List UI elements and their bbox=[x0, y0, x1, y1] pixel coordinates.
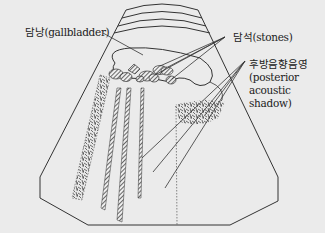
label-shadow-english-3: shadow) bbox=[249, 97, 325, 110]
label-shadow-korean: 후방음향음영 bbox=[249, 58, 325, 71]
label-shadow-english-2: acoustic bbox=[249, 84, 325, 97]
left-speckle-band bbox=[72, 75, 110, 200]
transducer-arcs bbox=[114, 4, 210, 33]
ultrasound-diagram: 담낭(gallbladder) 담석(stones) 후방음향음영 (poste… bbox=[0, 0, 325, 233]
label-gallbladder: 담낭(gallbladder) bbox=[25, 26, 109, 39]
label-shadow-english-1: (posterior bbox=[249, 71, 325, 84]
label-stones: 담석(stones) bbox=[233, 31, 293, 44]
acoustic-shadow-streaks bbox=[101, 88, 144, 222]
gallstones bbox=[109, 64, 176, 84]
label-posterior-acoustic-shadow: 후방음향음영 (posterior acoustic shadow) bbox=[249, 58, 325, 110]
